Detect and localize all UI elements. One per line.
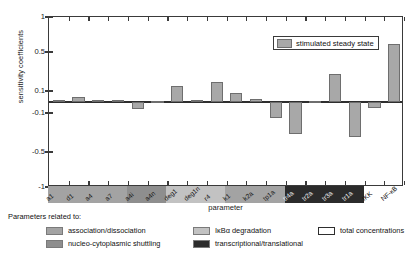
- legend-swatch-icon: [318, 227, 335, 235]
- y-axis-tick-label: -0.5: [32, 148, 45, 156]
- x-axis-tick-bottom: [88, 181, 89, 185]
- category-band-cell: tp1a: [265, 186, 285, 203]
- legend-swatch-icon: [46, 227, 63, 235]
- y-axis-tick-inner: [49, 16, 53, 17]
- x-axis-tick-top: [69, 17, 70, 21]
- legend-swatch-icon: [193, 240, 210, 248]
- x-axis-tick-top: [108, 17, 109, 21]
- x-axis-tick-bottom: [246, 181, 247, 185]
- category-band-cell: NF-κB: [383, 186, 403, 203]
- x-axis-tick-top: [345, 17, 346, 21]
- legend-swatch-icon: [46, 240, 63, 248]
- y-axis-tick-inner: [49, 112, 53, 113]
- y-axis-tick-inner: [49, 90, 53, 91]
- x-axis-tick-top: [128, 17, 129, 21]
- legend-entry-total-concentrations: total concentrations: [318, 226, 404, 235]
- x-axis-tick-bottom: [266, 181, 267, 185]
- x-axis-tick-top: [148, 17, 149, 21]
- y-axis-tick-label: -0.1: [32, 109, 45, 117]
- bar: [349, 102, 361, 137]
- x-axis-tick-bottom: [69, 181, 70, 185]
- y-axis-tick-label: 1: [41, 13, 45, 21]
- x-axis-tick-bottom: [227, 181, 228, 185]
- bar: [112, 100, 124, 102]
- x-axis-tick-top: [365, 17, 366, 21]
- bar: [72, 97, 84, 103]
- bottom-legend-header: Parameters related to:: [8, 212, 81, 221]
- bar: [329, 74, 341, 102]
- category-band-cell: a1: [48, 186, 68, 203]
- bar: [250, 99, 262, 102]
- bar: [171, 86, 183, 102]
- bar: [388, 44, 400, 102]
- bar: [53, 100, 65, 102]
- legend-swatch-icon: [193, 227, 210, 235]
- x-axis-tick-bottom: [365, 181, 366, 185]
- y-axis-tick-label: 0.5: [34, 48, 45, 56]
- x-axis-tick-top: [305, 17, 306, 21]
- x-axis-tick-top: [167, 17, 168, 21]
- x-axis-tick-bottom: [128, 181, 129, 185]
- plot-area: stimulated steady state 10.50.1-0.1-0.5-…: [48, 16, 403, 186]
- x-axis-tick-top: [384, 17, 385, 21]
- x-axis-tick-bottom: [404, 181, 405, 185]
- y-axis-tick-inner: [49, 151, 53, 152]
- x-axis-tick-top: [88, 17, 89, 21]
- legend-entry-ikba-degradation: IκBα degradation: [193, 226, 271, 235]
- category-color-band: a1d1a4a7a4ia4ndeg1deg1nr4k1k2atp1atr4atr…: [48, 186, 403, 203]
- bar: [151, 101, 163, 103]
- legend-label: transcriptional/translational: [215, 239, 303, 248]
- x-axis-tick-label: a1: [45, 192, 55, 202]
- y-axis-tick-inner: [49, 51, 53, 52]
- series-legend: stimulated steady state: [273, 36, 379, 50]
- x-axis-tick-bottom: [305, 181, 306, 185]
- x-axis-tick-top: [246, 17, 247, 21]
- bar: [132, 102, 144, 109]
- x-axis-tick-label: deg1n: [183, 185, 202, 202]
- bar: [368, 102, 380, 108]
- category-band-cell: tr1a: [344, 186, 364, 203]
- bar: [230, 93, 242, 102]
- x-axis-tick-top: [404, 17, 405, 21]
- bar: [270, 102, 282, 118]
- bar: [211, 82, 223, 102]
- x-axis-tick-top: [325, 17, 326, 21]
- y-axis-tick-label: -1: [38, 183, 45, 191]
- category-band-cell: deg1n: [186, 186, 206, 203]
- bar: [309, 101, 321, 103]
- bar: [92, 100, 104, 102]
- x-axis-tick-bottom: [148, 181, 149, 185]
- series-legend-swatch-icon: [277, 39, 292, 48]
- y-axis-title: sensitivity coefficients: [16, 0, 25, 137]
- x-axis-tick-top: [286, 17, 287, 21]
- x-axis-tick-bottom: [167, 181, 168, 185]
- y-axis-tick-label: 0.1: [34, 87, 45, 95]
- x-axis-tick-bottom: [108, 181, 109, 185]
- bottom-legend: Parameters related to: association/disso…: [8, 212, 407, 256]
- category-band-cell: a4i: [127, 186, 147, 203]
- legend-entry-nucleo-cytoplasmic-shuttling: nucleo-cytoplasmic shuttling: [46, 239, 160, 248]
- series-legend-label: stimulated steady state: [296, 39, 374, 48]
- legend-label: IκBα degradation: [215, 226, 271, 235]
- x-axis-title: parameter: [48, 203, 403, 212]
- bar: [191, 100, 203, 102]
- legend-label: nucleo-cytoplasmic shuttling: [68, 239, 160, 248]
- category-band-cell: tr3a: [324, 186, 344, 203]
- legend-label: association/dissociation: [68, 226, 146, 235]
- legend-label: total concentrations: [340, 226, 404, 235]
- x-axis-tick-bottom: [286, 181, 287, 185]
- x-axis-tick-bottom: [384, 181, 385, 185]
- x-axis-tick-top: [266, 17, 267, 21]
- x-axis-tick-bottom: [325, 181, 326, 185]
- x-axis-tick-bottom: [345, 181, 346, 185]
- x-axis-tick-bottom: [187, 181, 188, 185]
- x-axis-tick-label: NF-κB: [380, 185, 399, 202]
- bar: [289, 102, 301, 134]
- x-axis-tick-top: [207, 17, 208, 21]
- legend-entry-transcriptional-translational: transcriptional/translational: [193, 239, 303, 248]
- x-axis-tick-top: [227, 17, 228, 21]
- legend-entry-association-dissociation: association/dissociation: [46, 226, 146, 235]
- x-axis-tick-top: [187, 17, 188, 21]
- figure: sensitivity coefficients stimulated stea…: [0, 0, 407, 258]
- x-axis-tick-bottom: [207, 181, 208, 185]
